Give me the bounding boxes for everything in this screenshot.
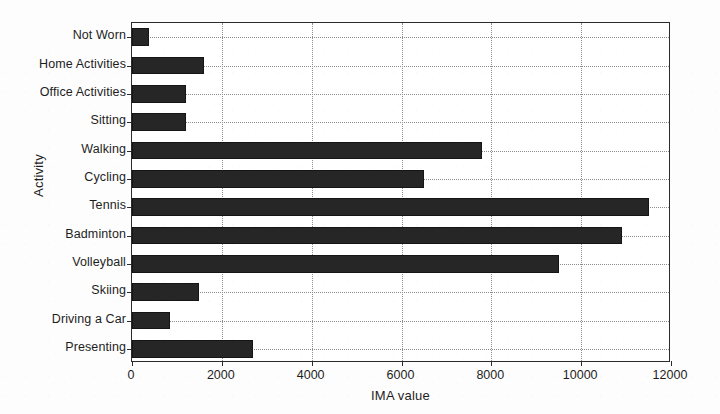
x-axis-title: IMA value	[131, 388, 670, 403]
bar	[132, 255, 559, 273]
bar	[132, 113, 186, 131]
x-tick-label-0: 0	[128, 368, 135, 382]
bar	[132, 198, 649, 216]
y-tickmark-1	[127, 66, 132, 67]
y-tickmark-11	[127, 349, 132, 350]
gridline-x-2000	[222, 23, 223, 361]
bar	[132, 283, 199, 301]
figure-canvas: Activity Not WornHome ActivitiesOffice A…	[0, 0, 720, 414]
x-tick-label-10000: 10000	[563, 368, 598, 382]
gridline-y-1	[132, 66, 669, 67]
x-tick-label-6000: 6000	[387, 368, 415, 382]
y-tickmark-8	[127, 264, 132, 265]
x-tickmark-4000	[312, 361, 313, 366]
y-tickmark-0	[127, 37, 132, 38]
gridline-y-2	[132, 94, 669, 95]
y-tick-label-6: Tennis	[0, 198, 126, 212]
gridline-y-0	[132, 37, 669, 38]
x-tickmark-6000	[402, 361, 403, 366]
y-tick-label-1: Home Activities	[0, 57, 126, 71]
y-tickmark-10	[127, 321, 132, 322]
bar	[132, 142, 482, 160]
gridline-x-6000	[402, 23, 403, 361]
plot-area	[131, 22, 670, 362]
gridline-x-10000	[581, 23, 582, 361]
bar	[132, 227, 622, 245]
y-tick-label-2: Office Activities	[0, 85, 126, 99]
x-tickmark-2000	[222, 361, 223, 366]
y-tick-label-11: Presenting	[0, 340, 126, 354]
bar	[132, 85, 186, 103]
x-tick-label-8000: 8000	[476, 368, 504, 382]
y-tickmark-9	[127, 292, 132, 293]
bar	[132, 170, 424, 188]
x-tick-label-2000: 2000	[207, 368, 235, 382]
x-tickmark-0	[132, 361, 133, 366]
x-tick-label-12000: 12000	[653, 368, 688, 382]
gridline-y-9	[132, 292, 669, 293]
y-tickmark-2	[127, 94, 132, 95]
y-tick-label-3: Sitting	[0, 113, 126, 127]
y-tickmark-5	[127, 179, 132, 180]
gridline-y-3	[132, 122, 669, 123]
gridline-x-4000	[312, 23, 313, 361]
gridline-y-10	[132, 321, 669, 322]
bar	[132, 312, 170, 330]
y-tickmark-7	[127, 236, 132, 237]
x-tickmark-8000	[491, 361, 492, 366]
x-tick-label-4000: 4000	[297, 368, 325, 382]
y-tick-label-8: Volleyball	[0, 255, 126, 269]
y-tick-label-5: Cycling	[0, 170, 126, 184]
y-tick-label-10: Driving a Car	[0, 312, 126, 326]
bar	[132, 340, 253, 358]
y-tickmark-6	[127, 207, 132, 208]
bar	[132, 57, 204, 75]
x-tickmark-12000	[671, 361, 672, 366]
y-tick-label-7: Badminton	[0, 227, 126, 241]
y-tick-label-0: Not Worn	[0, 28, 126, 42]
y-tickmark-4	[127, 151, 132, 152]
y-tick-label-9: Skiing	[0, 283, 126, 297]
y-tick-label-4: Walking	[0, 142, 126, 156]
bar	[132, 28, 149, 46]
y-tickmark-3	[127, 122, 132, 123]
x-tickmark-10000	[581, 361, 582, 366]
gridline-x-8000	[491, 23, 492, 361]
